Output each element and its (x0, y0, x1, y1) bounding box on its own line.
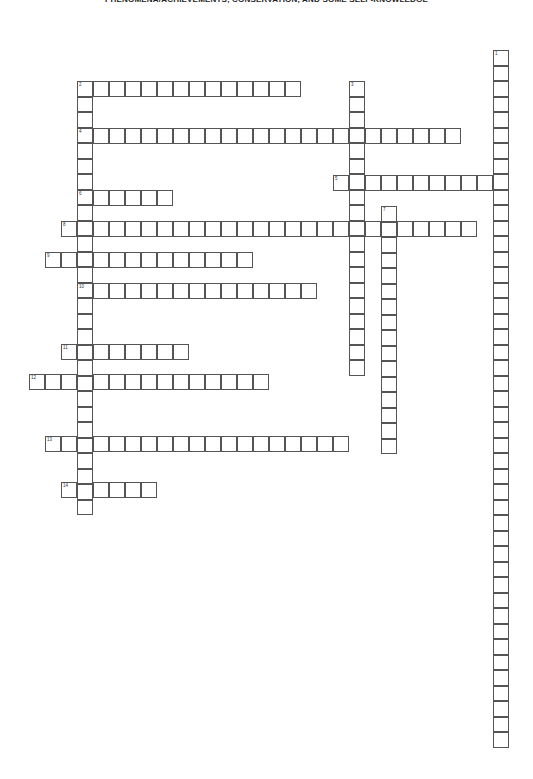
crossword-cell[interactable] (173, 221, 189, 237)
crossword-cell[interactable] (493, 329, 509, 345)
crossword-cell[interactable] (381, 128, 397, 144)
crossword-cell[interactable] (61, 374, 77, 390)
crossword-cell[interactable] (493, 376, 509, 392)
crossword-cell[interactable] (349, 112, 365, 128)
crossword-cell[interactable] (125, 374, 141, 390)
crossword-cell[interactable] (77, 112, 93, 128)
crossword-cell[interactable] (77, 267, 93, 283)
crossword-cell[interactable] (109, 283, 125, 299)
crossword-cell[interactable] (493, 252, 509, 268)
crossword-cell[interactable] (413, 221, 429, 237)
crossword-cell[interactable] (493, 298, 509, 314)
crossword-cell[interactable] (109, 344, 125, 360)
crossword-cell[interactable] (109, 436, 125, 452)
crossword-cell[interactable] (493, 546, 509, 562)
crossword-cell[interactable] (109, 190, 125, 206)
crossword-cell[interactable] (77, 298, 93, 314)
crossword-cell[interactable] (157, 283, 173, 299)
crossword-cell[interactable] (205, 221, 221, 237)
crossword-cell[interactable] (493, 236, 509, 252)
crossword-cell[interactable] (333, 221, 349, 237)
crossword-cell[interactable] (77, 97, 93, 113)
crossword-cell[interactable] (349, 329, 365, 345)
crossword-cell[interactable] (77, 329, 93, 345)
crossword-cell[interactable] (157, 221, 173, 237)
crossword-cell[interactable] (381, 423, 397, 439)
crossword-cell[interactable] (269, 221, 285, 237)
crossword-cell[interactable] (109, 252, 125, 268)
crossword-cell[interactable] (61, 436, 77, 452)
crossword-cell[interactable] (349, 314, 365, 330)
crossword-cell[interactable] (189, 374, 205, 390)
crossword-cell[interactable] (77, 143, 93, 159)
crossword-cell[interactable] (397, 175, 413, 191)
crossword-cell[interactable] (221, 81, 237, 97)
crossword-cell[interactable] (237, 221, 253, 237)
crossword-cell[interactable] (381, 237, 397, 253)
crossword-cell[interactable] (493, 500, 509, 516)
crossword-cell[interactable] (493, 593, 509, 609)
crossword-cell[interactable] (253, 128, 269, 144)
crossword-cell[interactable] (173, 252, 189, 268)
crossword-cell[interactable] (461, 175, 477, 191)
crossword-cell[interactable] (237, 374, 253, 390)
crossword-cell[interactable] (301, 221, 317, 237)
crossword-cell[interactable]: 3 (349, 81, 365, 97)
crossword-cell[interactable] (397, 128, 413, 144)
crossword-cell[interactable] (365, 175, 381, 191)
crossword-cell[interactable] (45, 374, 61, 390)
crossword-cell[interactable] (141, 344, 157, 360)
crossword-cell[interactable] (381, 315, 397, 331)
crossword-cell[interactable] (493, 143, 509, 159)
crossword-cell[interactable] (125, 436, 141, 452)
crossword-cell[interactable] (109, 482, 125, 498)
crossword-cell[interactable] (221, 374, 237, 390)
crossword-cell[interactable] (141, 374, 157, 390)
crossword-cell[interactable] (141, 283, 157, 299)
crossword-cell[interactable] (77, 407, 93, 423)
crossword-cell[interactable] (365, 128, 381, 144)
crossword-cell[interactable] (349, 236, 365, 252)
crossword-cell[interactable]: 4 (77, 128, 93, 144)
crossword-cell[interactable] (157, 81, 173, 97)
crossword-cell[interactable] (253, 374, 269, 390)
crossword-cell[interactable] (61, 252, 77, 268)
crossword-cell[interactable] (205, 283, 221, 299)
crossword-cell[interactable] (93, 482, 109, 498)
crossword-cell[interactable] (349, 205, 365, 221)
crossword-cell[interactable] (349, 360, 365, 376)
crossword-cell[interactable] (493, 701, 509, 717)
crossword-cell[interactable] (189, 283, 205, 299)
crossword-cell[interactable] (77, 221, 93, 237)
crossword-cell[interactable] (221, 128, 237, 144)
crossword-cell[interactable]: 6 (77, 190, 93, 206)
crossword-cell[interactable] (173, 436, 189, 452)
crossword-cell[interactable] (269, 436, 285, 452)
crossword-cell[interactable] (157, 344, 173, 360)
crossword-cell[interactable] (77, 469, 93, 485)
crossword-cell[interactable] (93, 344, 109, 360)
crossword-cell[interactable] (493, 531, 509, 547)
crossword-cell[interactable] (445, 175, 461, 191)
crossword-cell[interactable] (381, 392, 397, 408)
crossword-cell[interactable] (157, 252, 173, 268)
crossword-cell[interactable] (77, 484, 93, 500)
crossword-cell[interactable] (269, 128, 285, 144)
crossword-cell[interactable] (253, 221, 269, 237)
crossword-cell[interactable]: 5 (333, 175, 349, 191)
crossword-cell[interactable] (141, 221, 157, 237)
crossword-cell[interactable] (173, 374, 189, 390)
crossword-cell[interactable] (141, 252, 157, 268)
crossword-cell[interactable] (173, 344, 189, 360)
crossword-cell[interactable] (493, 190, 509, 206)
crossword-cell[interactable] (93, 190, 109, 206)
crossword-cell[interactable] (413, 128, 429, 144)
crossword-cell[interactable] (141, 190, 157, 206)
crossword-cell[interactable] (93, 436, 109, 452)
crossword-cell[interactable] (157, 128, 173, 144)
crossword-cell[interactable] (221, 252, 237, 268)
crossword-cell[interactable] (493, 66, 509, 82)
crossword-cell[interactable] (269, 283, 285, 299)
crossword-cell[interactable] (381, 175, 397, 191)
crossword-cell[interactable] (349, 345, 365, 361)
